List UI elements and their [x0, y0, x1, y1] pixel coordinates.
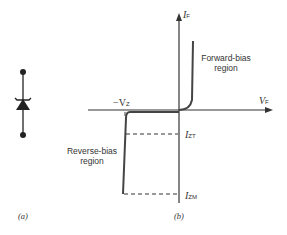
zener-diode-icon — [15, 69, 31, 138]
izm-label: IZM — [185, 191, 197, 202]
reverse-bias-label: Reverse-bias region — [63, 146, 121, 166]
zener-diagram-canvas — [0, 0, 287, 235]
forward-bias-label: Forward-bias region — [196, 53, 256, 73]
x-axis-arrow-icon — [265, 107, 273, 113]
caption-a: (a) — [18, 211, 28, 221]
current-markers — [124, 134, 178, 194]
neg-vz-label: −VZ — [113, 98, 130, 109]
y-axis-arrow-icon — [176, 13, 182, 21]
izt-label: IZT — [185, 130, 196, 141]
characteristic-curve — [123, 41, 193, 194]
y-axis-label: IF — [183, 10, 190, 21]
caption-b: (b) — [174, 211, 184, 221]
x-axis-label: VF — [259, 96, 269, 107]
